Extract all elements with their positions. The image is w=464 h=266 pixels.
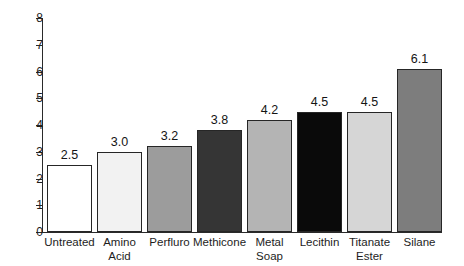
bar-value-label: 3.2 — [161, 130, 178, 143]
bar-group[interactable]: 4.2 — [247, 120, 292, 232]
bar-group[interactable]: 3.8 — [197, 130, 242, 232]
category-label-line: Amino — [103, 236, 136, 248]
category-label-line: Acid — [91, 250, 148, 264]
category-label: MetalSoap — [241, 236, 298, 263]
bar-value-label: 4.5 — [311, 96, 328, 109]
bar-value-label: 3.8 — [211, 114, 228, 127]
bar-chart: 012345678 2.53.03.23.84.24.54.56.1 Untre… — [0, 0, 464, 266]
bar-value-label: 6.1 — [411, 53, 428, 66]
category-label-line: Silane — [404, 236, 436, 248]
bar[interactable] — [197, 130, 242, 232]
category-label: Perfluro — [141, 236, 198, 250]
category-label: AminoAcid — [91, 236, 148, 263]
bar-group[interactable]: 2.5 — [47, 165, 92, 232]
bar-group[interactable]: 3.2 — [147, 146, 192, 232]
category-label: Silane — [391, 236, 448, 250]
bar[interactable] — [247, 120, 292, 232]
category-label: Methicone — [191, 236, 248, 250]
bar[interactable] — [397, 69, 442, 232]
category-label: Lecithin — [291, 236, 348, 250]
bar-value-label: 3.0 — [111, 136, 128, 149]
category-label-line: Perfluro — [149, 236, 189, 248]
category-label-line: Methicone — [193, 236, 246, 248]
category-label-line: Metal — [255, 236, 283, 248]
bars-layer: 2.53.03.23.84.24.54.56.1 — [0, 0, 464, 266]
bar[interactable] — [347, 112, 392, 232]
bar-group[interactable]: 3.0 — [97, 152, 142, 232]
bar-group[interactable]: 6.1 — [397, 69, 442, 232]
category-label: Untreated — [41, 236, 98, 250]
bar[interactable] — [47, 165, 92, 232]
category-label-line: Lecithin — [300, 236, 340, 248]
bar-value-label: 2.5 — [61, 149, 78, 162]
bar[interactable] — [147, 146, 192, 232]
bar-value-label: 4.2 — [261, 104, 278, 117]
category-label-line: Titanate — [349, 236, 390, 248]
category-label-line: Ester — [341, 250, 398, 264]
bar-group[interactable]: 4.5 — [347, 112, 392, 232]
category-label-line: Untreated — [44, 236, 95, 248]
bar-group[interactable]: 4.5 — [297, 112, 342, 232]
bar[interactable] — [97, 152, 142, 232]
category-label-line: Soap — [241, 250, 298, 264]
bar[interactable] — [297, 112, 342, 232]
category-label: TitanateEster — [341, 236, 398, 263]
bar-value-label: 4.5 — [361, 96, 378, 109]
